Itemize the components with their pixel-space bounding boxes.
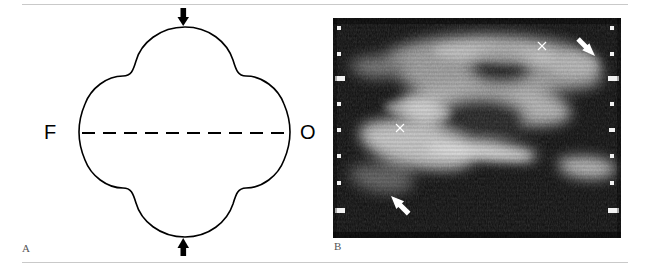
figure-container: F O A (0, 0, 650, 274)
frontal-label: F (44, 121, 56, 143)
cloverleaf-skull-outline (79, 27, 290, 237)
occipital-label: O (300, 121, 316, 143)
panel-a-line-drawing: F O (0, 8, 325, 256)
bottom-divider-rule (22, 262, 628, 263)
superior-arrow-icon (178, 8, 190, 26)
panel-a-letter: A (22, 242, 30, 254)
inferior-arrow-icon (178, 238, 190, 256)
top-divider-rule (22, 4, 628, 5)
panel-b-ultrasound (333, 18, 621, 238)
panel-b-letter: B (334, 240, 342, 252)
